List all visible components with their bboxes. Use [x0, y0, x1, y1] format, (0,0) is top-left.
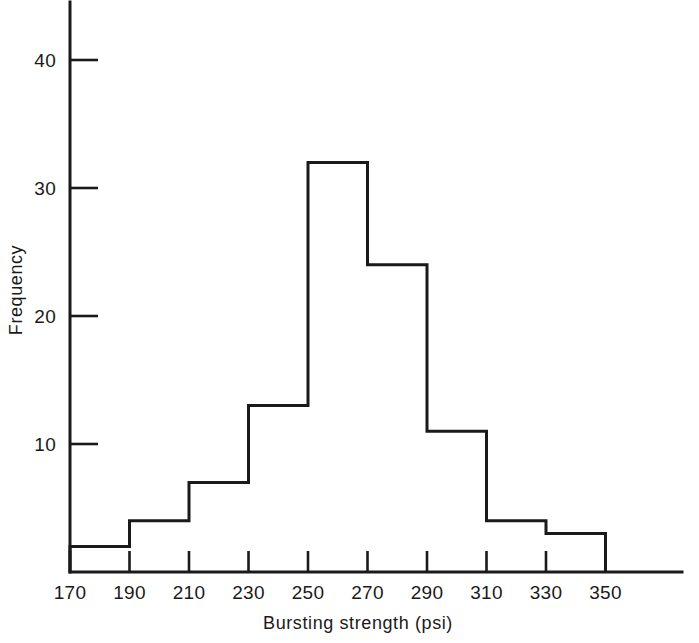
y-axis-tick-labels: 10203040	[34, 50, 56, 455]
x-tick-label-330: 330	[530, 582, 563, 603]
x-tick-label-290: 290	[411, 582, 444, 603]
x-tick-label-310: 310	[470, 582, 503, 603]
x-tick-label-190: 190	[113, 582, 146, 603]
y-axis-ticks	[70, 60, 98, 444]
x-axis-tick-labels: 170190210230250270290310330350	[54, 582, 622, 603]
bar-190-210: 190-210: 4	[130, 521, 190, 572]
histogram-bars: 170-190: 2190-210: 4210-230: 7230-250: 1…	[70, 162, 606, 572]
x-tick-label-270: 270	[351, 582, 384, 603]
histogram-plot: 10203040 170190210230250270290310330350 …	[0, 0, 699, 643]
bar-310-330: 310-330: 4	[487, 521, 547, 572]
histogram-figure: 10203040 170190210230250270290310330350 …	[0, 0, 699, 643]
bar-270-290: 270-290: 24	[368, 265, 428, 572]
x-tick-label-250: 250	[292, 582, 325, 603]
bar-290-310: 290-310: 11	[427, 431, 487, 572]
x-tick-label-230: 230	[232, 582, 265, 603]
bar-330-350: 330-350: 3	[546, 534, 606, 572]
y-tick-label-30: 30	[34, 178, 56, 199]
y-tick-label-10: 10	[34, 434, 56, 455]
x-axis-title: Bursting strength (psi)	[263, 613, 453, 633]
bar-230-250: 230-250: 13	[249, 406, 309, 572]
bar-170-190: 170-190: 2	[70, 546, 130, 572]
x-tick-label-170: 170	[54, 582, 87, 603]
bar-210-230: 210-230: 7	[189, 482, 249, 572]
y-tick-label-40: 40	[34, 50, 56, 71]
y-axis-title: Frequency	[6, 245, 26, 335]
y-tick-label-20: 20	[34, 306, 56, 327]
x-tick-label-350: 350	[589, 582, 622, 603]
bar-250-270: 250-270: 32	[308, 162, 368, 572]
x-tick-label-210: 210	[173, 582, 206, 603]
